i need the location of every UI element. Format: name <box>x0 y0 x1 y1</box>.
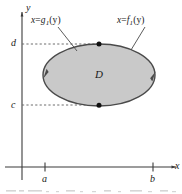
tick-label-d: d <box>11 38 16 48</box>
leader-line-left <box>58 27 77 51</box>
x-axis-label: x <box>175 161 179 171</box>
tick-label-a: a <box>42 174 47 184</box>
leader-line-right <box>131 27 145 50</box>
figure-canvas <box>0 0 182 194</box>
figure-container: y x a b c d x=g1(y) x=f1(y) D <box>0 0 182 194</box>
left-curve-fn: g <box>41 15 46 25</box>
right-curve-subscript: 1 <box>130 19 134 27</box>
region-label-d: D <box>95 69 103 80</box>
y-axis-arrow-icon <box>21 12 24 17</box>
tick-label-c: c <box>11 100 15 110</box>
right-curve-label: x=f1(y) <box>117 16 145 26</box>
top-vertex-point <box>97 42 102 47</box>
tick-label-b: b <box>150 174 155 184</box>
y-axis-label: y <box>26 3 30 13</box>
left-curve-label: x=g1(y) <box>31 16 61 26</box>
bottom-vertex-point <box>97 103 102 108</box>
right-curve-arg: (y) <box>133 15 144 25</box>
left-curve-arg: (y) <box>49 15 60 25</box>
left-curve-subscript: 1 <box>46 19 50 27</box>
caption-fragments <box>6 190 176 192</box>
